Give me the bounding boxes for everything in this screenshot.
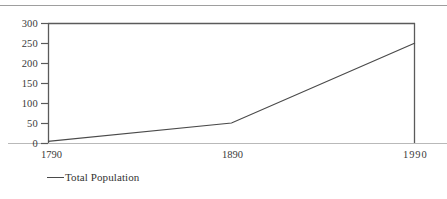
x-axis-label-1990: 1990 <box>403 150 428 161</box>
chart-figure: 300 250 200 150 100 50 0 1790 1890 1990 … <box>0 0 447 199</box>
legend-label-total-population: Total Population <box>65 172 139 183</box>
x-axis-tick-labels: 1790 1890 1990 <box>0 0 447 199</box>
chart-legend: Total Population <box>47 172 139 183</box>
plot-area: 300 250 200 150 100 50 0 1790 1890 1990 <box>0 0 447 199</box>
x-axis-label-1890: 1890 <box>222 150 243 161</box>
legend-line-marker-icon <box>47 177 64 178</box>
x-axis-label-1790: 1790 <box>41 150 62 161</box>
